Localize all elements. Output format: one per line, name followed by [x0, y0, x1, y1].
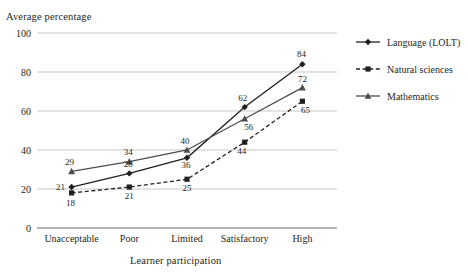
data-point-label: 28	[124, 159, 134, 169]
data-point-marker	[300, 99, 305, 104]
data-point-label: 40	[181, 136, 191, 146]
x-category-label: Unacceptable	[44, 233, 99, 244]
data-point-marker	[184, 177, 189, 182]
chart-legend: Language (LOLT)Natural sciencesMathemati…	[356, 37, 460, 102]
chart-canvas: 020406080100 UnacceptablePoorLimitedSati…	[0, 0, 468, 275]
data-point-marker	[126, 170, 132, 176]
data-point-label: 21	[56, 182, 65, 192]
data-point-label: 36	[182, 160, 192, 170]
legend-label: Mathematics	[387, 91, 439, 102]
data-point-label: 44	[237, 146, 247, 156]
chart-figure: Average percentage Learner participation…	[0, 0, 468, 275]
data-point-label: 56	[244, 122, 254, 132]
y-tick-label: 0	[26, 223, 31, 234]
data-point-label: 25	[183, 183, 193, 193]
y-tick-label: 20	[21, 184, 31, 195]
data-point-label: 62	[238, 93, 247, 103]
data-point-label: 29	[65, 157, 75, 167]
x-category-label: Poor	[120, 233, 140, 244]
data-point-label: 21	[125, 191, 134, 201]
y-tick-labels: 020406080100	[16, 28, 31, 234]
data-point-label: 18	[66, 198, 76, 208]
x-category-label: Limited	[171, 233, 203, 244]
data-point-marker	[365, 66, 370, 71]
series-lines	[68, 61, 306, 196]
legend-label: Natural sciences	[387, 64, 453, 75]
data-point-marker	[127, 184, 132, 189]
y-tick-label: 40	[21, 145, 31, 156]
data-point-marker	[241, 115, 248, 121]
gridlines	[37, 33, 337, 228]
data-point-marker	[365, 39, 371, 45]
data-point-marker	[69, 190, 74, 195]
x-category-label: High	[292, 233, 312, 244]
data-point-label: 34	[124, 147, 134, 157]
data-point-marker	[299, 84, 306, 90]
x-category-labels: UnacceptablePoorLimitedSatisfactoryHigh	[44, 233, 312, 244]
data-point-label: 84	[297, 49, 307, 59]
data-point-marker	[242, 140, 247, 145]
legend-label: Language (LOLT)	[387, 37, 460, 49]
y-tick-label: 100	[16, 28, 31, 39]
y-tick-label: 80	[21, 67, 31, 78]
data-point-labels: 212836628418212544652934405672	[56, 49, 310, 208]
data-point-label: 65	[301, 105, 311, 115]
x-category-label: Satisfactory	[221, 233, 269, 244]
data-point-label: 72	[298, 74, 307, 84]
y-tick-label: 60	[21, 106, 31, 117]
